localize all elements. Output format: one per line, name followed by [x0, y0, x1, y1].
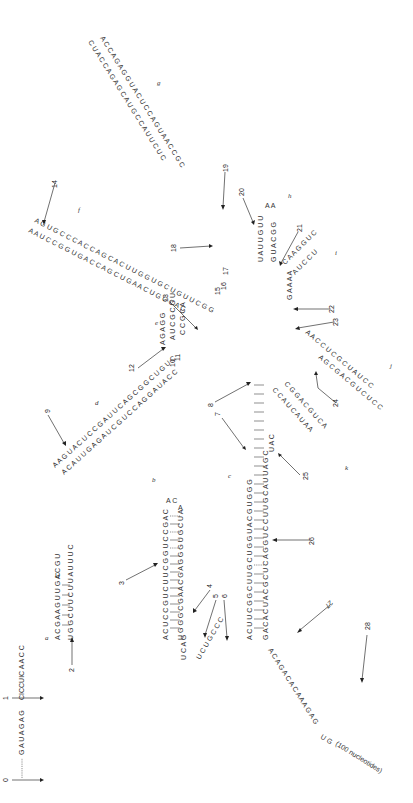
svg-text:22: 22: [328, 305, 335, 313]
svg-text:U G G C U U C U U A U U U C: U G G C U U C U U A U U U C: [67, 544, 74, 640]
svg-text:A C G A A G U U G A C G U: A C G A A G U U G A C G U: [54, 554, 61, 640]
svg-text:5: 5: [212, 594, 219, 598]
svg-text:0: 0: [2, 778, 9, 782]
rna-secondary-structure-diagram: G A U A G A G CICCUIC A A C C A C G A A …: [0, 0, 413, 803]
stem-b: A C U C C G U C U U C G G U C C G A C U …: [152, 476, 184, 640]
svg-text:G A U A G A G: G A U A G A G: [18, 710, 25, 755]
svg-text:A G A G G: A G A G G: [159, 313, 166, 345]
svg-text:A A: A A: [265, 202, 276, 209]
svg-text:U G G G C G A A C G A G G G U: U G G G C G A A C G A G G G U G C U A: [177, 509, 184, 640]
svg-text:i: i: [335, 249, 337, 257]
svg-text:24: 24: [332, 399, 339, 407]
stem-i: C A A G G U C A U C C U G A A A A i: [281, 229, 337, 300]
svg-text:A C: A C: [166, 497, 177, 504]
svg-text:d: d: [95, 399, 99, 407]
svg-text:A C A G A C A C A A A G A G: A C A G A C A C A A A G A G: [267, 647, 320, 726]
svg-text:A A C C U C G C U A U C C: A A C C U C G C U A U C C: [304, 328, 375, 389]
svg-text:C A A G G U C: C A A G G U C: [281, 229, 318, 266]
stem-j: A A C C U C G C U A U C C A G C G A C G …: [304, 328, 392, 411]
svg-text:U A C: U A C: [268, 434, 275, 452]
svg-text:21: 21: [296, 224, 303, 232]
svg-text:17: 17: [222, 267, 229, 275]
stem-c: A C U U C G G C U U G C U G G U A C G U …: [228, 385, 269, 640]
svg-text:28: 28: [364, 622, 371, 630]
svg-text:4: 4: [206, 584, 213, 588]
svg-text:A G U G C C C A C C A G C A C: A G U G C C C A C C A G C A C U U G G U …: [34, 217, 216, 314]
junction-4-6: U C A G U C U G C C C: [180, 616, 225, 661]
stem-d: A A G U A C U C C G A U U C A G C G G C …: [51, 354, 179, 475]
svg-text:9: 9: [44, 409, 51, 413]
svg-text:3: 3: [118, 581, 125, 585]
svg-text:27: 27: [324, 599, 335, 610]
svg-text:CICCUIC A A C C: CICCUIC A A C C: [18, 645, 25, 700]
svg-text:25: 25: [302, 472, 309, 480]
svg-text:26: 26: [308, 537, 315, 545]
svg-text:23: 23: [332, 318, 339, 326]
svg-text:A C C A G A G G U A C U C C A: A C C A G A G G U A C U C C A G U A A C …: [99, 35, 186, 169]
svg-text:g: g: [157, 79, 161, 87]
svg-text:(100 nucleotides): (100 nucleotides): [334, 740, 384, 775]
svg-text:11: 11: [174, 354, 181, 361]
svg-text:G A C A C U A C G C U C A G G: G A C A C U A C G C U C A G G U C C U U …: [262, 451, 269, 640]
marker-arrows: 0 1 2 3 4 5 6 7 8 9 10 11 12 13: [2, 164, 371, 782]
svg-text:7: 7: [214, 412, 221, 416]
svg-text:U C A G: U C A G: [180, 635, 187, 660]
svg-text:U G: U G: [319, 733, 333, 746]
svg-text:e: e: [155, 319, 158, 327]
svg-text:A C A U U G A G A U C G U C C: A C A U U G A G A U C G U C C A G G A U …: [60, 368, 179, 476]
svg-text:19: 19: [222, 164, 229, 172]
svg-text:h: h: [288, 192, 292, 200]
stem-a: A C G A A G U U G A C G U U G G C U U C …: [45, 544, 74, 642]
svg-text:f: f: [78, 206, 81, 214]
svg-text:A C U C C G U C U U C G G U C: A C U C C G U C U U C G G U C C G A C: [162, 509, 169, 640]
svg-text:18: 18: [170, 244, 177, 252]
svg-text:16: 16: [220, 282, 227, 290]
svg-text:G U A C G G: G U A C G G: [270, 222, 277, 262]
stem-g: C U A C C A G A G C A U G C C A U U C U …: [87, 35, 186, 169]
svg-text:U A U U G U U: U A U U G U U: [257, 216, 264, 262]
svg-text:c: c: [228, 472, 232, 480]
svg-text:1: 1: [2, 696, 9, 700]
stem-f: A A U C C G G U G A C C A G C U G A A C …: [28, 206, 216, 314]
stem-k: C C A U C A U A A C G G A C G U C A U A …: [268, 380, 349, 472]
svg-text:6: 6: [221, 594, 228, 598]
five-prime-tail: G A U A G A G CICCUIC A A C C: [18, 645, 25, 778]
svg-text:20: 20: [238, 188, 245, 196]
svg-text:b: b: [152, 476, 156, 484]
svg-text:a: a: [45, 634, 49, 642]
svg-text:k: k: [345, 464, 349, 472]
svg-text:A C U U C G G C U U G C U G G: A C U U C G G C U U G C U G G U A C G U …: [246, 479, 253, 640]
svg-text:12: 12: [128, 364, 135, 372]
svg-text:14: 14: [51, 180, 58, 188]
stem-h: U A U U G U U G U A C G G A A h: [257, 192, 292, 262]
three-prime-tail: A C A G A C A C A A A G A G (100 nucleot…: [267, 647, 384, 775]
svg-text:G A A A A: G A A A A: [286, 270, 293, 300]
svg-text:A: A: [178, 504, 183, 511]
svg-text:2: 2: [68, 668, 75, 672]
svg-text:13: 13: [162, 294, 169, 302]
svg-text:U C U G C C C: U C U G C C C: [195, 616, 225, 661]
svg-text:U: U: [55, 572, 60, 579]
svg-text:A A G U A C U C C G A U U C A: A A G U A C U C C G A U U C A G C G G C …: [51, 354, 177, 468]
svg-text:8: 8: [207, 403, 214, 407]
svg-text:j: j: [389, 362, 392, 370]
svg-text:C U A C C A G A G C A U G C C: C U A C C A G A G C A U G C C A U U C U …: [87, 39, 167, 162]
